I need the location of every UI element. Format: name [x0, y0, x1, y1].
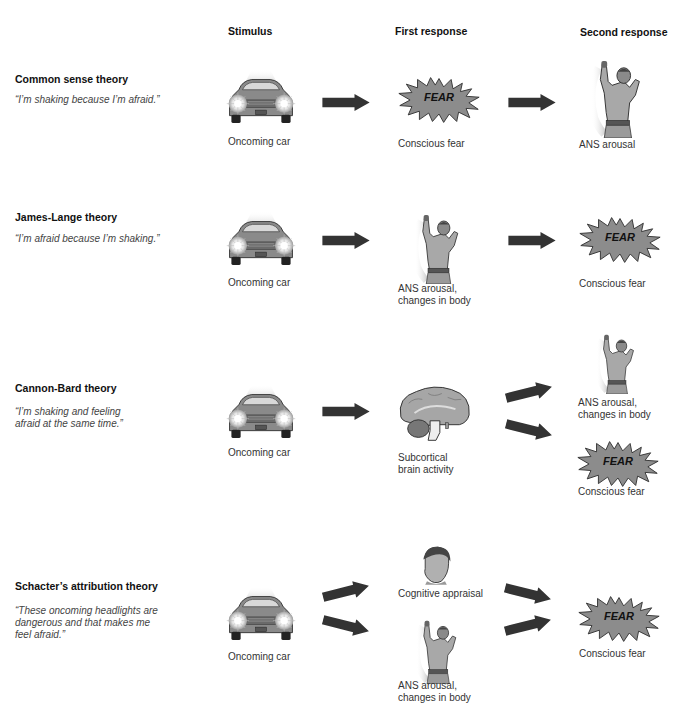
- arrow-icon: [504, 415, 555, 443]
- car-icon: [224, 383, 298, 445]
- theory-quote: “I’m shaking because I’m afraid.”: [15, 94, 195, 106]
- fear-label: FEAR: [578, 231, 662, 243]
- fear-burst-icon: FEAR: [577, 595, 661, 643]
- fear-label: FEAR: [397, 91, 481, 103]
- theory-title: Common sense theory: [15, 73, 128, 85]
- arrow-icon: [321, 577, 372, 605]
- second-response-caption: Conscious fear: [579, 648, 646, 660]
- first-response-caption-2: ANS arousal, changes in body: [398, 680, 471, 704]
- first-response-caption: Cognitive appraisal: [398, 588, 483, 600]
- fear-burst-icon: FEAR: [397, 76, 481, 124]
- second-response-caption-2: Conscious fear: [578, 486, 645, 498]
- brain-icon: [395, 383, 473, 443]
- theory-title: Schacter’s attribution theory: [15, 580, 158, 592]
- arrow-icon: [322, 232, 370, 249]
- arrow-icon: [508, 94, 556, 111]
- shaking-person-icon: [406, 620, 464, 684]
- theory-title: Cannon-Bard theory: [15, 382, 117, 394]
- arrow-icon: [322, 94, 370, 111]
- car-icon: [224, 68, 298, 130]
- arrow-icon: [504, 378, 555, 406]
- fear-burst-icon: FEAR: [576, 440, 660, 488]
- shaking-person-icon: [584, 334, 644, 394]
- second-response-caption: Conscious fear: [579, 278, 646, 290]
- theory-quote: “These oncoming headlights are dangerous…: [15, 605, 160, 641]
- stimulus-caption: Oncoming car: [228, 651, 290, 663]
- first-response-caption: ANS arousal, changes in body: [398, 283, 471, 307]
- fear-label: FEAR: [577, 610, 661, 622]
- car-icon: [224, 210, 298, 272]
- first-response-caption: Subcortical brain activity: [398, 452, 454, 476]
- theory-quote: “I’m shaking and feeling afraid at the s…: [15, 406, 145, 430]
- first-response-caption: Conscious fear: [398, 138, 465, 150]
- thinking-head-icon: [418, 544, 454, 586]
- second-response-caption: ANS arousal, changes in body: [578, 397, 651, 421]
- second-response-caption: ANS arousal: [579, 139, 635, 151]
- fear-burst-icon: FEAR: [578, 216, 662, 264]
- column-header-second-response: Second response: [580, 26, 668, 38]
- stimulus-caption: Oncoming car: [228, 447, 290, 459]
- stimulus-caption: Oncoming car: [228, 136, 290, 148]
- stimulus-caption: Oncoming car: [228, 277, 290, 289]
- arrow-icon: [503, 579, 554, 607]
- shaking-person-icon: [406, 214, 464, 284]
- theory-quote: “I’m afraid because I’m shaking.”: [15, 233, 195, 245]
- arrow-icon: [508, 232, 556, 249]
- car-icon: [224, 585, 298, 647]
- fear-label: FEAR: [576, 455, 660, 467]
- arrow-icon: [503, 611, 554, 639]
- theory-title: James-Lange theory: [15, 211, 117, 223]
- arrow-icon: [322, 403, 370, 420]
- shaking-person-icon: [584, 60, 644, 138]
- column-header-first-response: First response: [395, 25, 467, 37]
- column-header-stimulus: Stimulus: [228, 25, 272, 37]
- arrow-icon: [321, 611, 372, 639]
